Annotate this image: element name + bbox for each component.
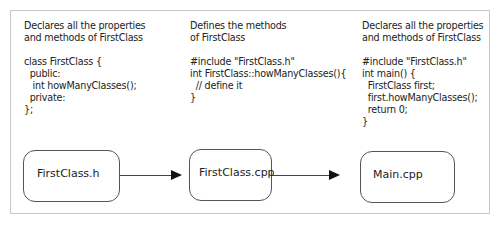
header-description: Declares all the properties and methods … xyxy=(24,20,145,44)
file-box-header: FirstClass.h xyxy=(23,150,120,202)
header-code: class FirstClass { public: int howManyCl… xyxy=(24,56,145,116)
file-box-cpp: FirstClass.cpp xyxy=(189,149,272,201)
file-box-main: Main.cpp xyxy=(360,151,455,203)
arrowhead-icon xyxy=(171,170,182,180)
main-description: Declares all the properties and methods … xyxy=(362,20,483,44)
arrowhead-icon xyxy=(329,170,340,180)
arrow-cpp-to-main xyxy=(272,175,338,176)
cpp-code: #include "FirstClass.h" int FirstClass::… xyxy=(190,56,346,104)
file-box-label: FirstClass.cpp xyxy=(199,166,275,179)
arrow-header-to-cpp xyxy=(120,175,180,176)
file-box-label: Main.cpp xyxy=(373,168,423,181)
column-main-file: Declares all the properties and methods … xyxy=(362,20,483,128)
main-code: #include "FirstClass.h" int main() { Fir… xyxy=(362,56,483,128)
cpp-description: Defines the methods of FirstClass xyxy=(190,20,346,44)
file-box-label: FirstClass.h xyxy=(37,167,100,180)
column-cpp-file: Defines the methods of FirstClass #inclu… xyxy=(190,20,346,104)
column-header-file: Declares all the properties and methods … xyxy=(24,20,145,116)
